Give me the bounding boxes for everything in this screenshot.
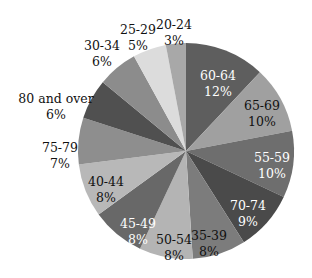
slice-category: 60-64: [200, 68, 236, 83]
slice-percent: 9%: [238, 214, 258, 229]
slice-category: 65-69: [244, 98, 280, 113]
slice-percent: 8%: [199, 244, 219, 259]
slice-percent: 12%: [204, 84, 232, 99]
slice-label: 55-5910%: [254, 150, 290, 181]
slice-category: 20-24: [156, 17, 192, 32]
slice-label: 60-6412%: [200, 68, 236, 99]
slice-percent: 3%: [164, 33, 184, 48]
slice-percent: 8%: [164, 248, 184, 263]
slice-category: 75-79: [42, 140, 78, 155]
slice-label: 75-797%: [42, 140, 78, 171]
slice-percent: 10%: [258, 166, 286, 181]
slice-percent: 6%: [46, 107, 66, 122]
slice-label: 80 and over6%: [18, 91, 93, 122]
slice-label: 65-6910%: [244, 98, 280, 129]
slice-category: 45-49: [120, 216, 156, 231]
pie-chart: 60-6412%65-6910%55-5910%70-749%35-398%50…: [0, 0, 312, 278]
slice-category: 80 and over: [18, 91, 93, 106]
slice-percent: 5%: [128, 38, 148, 53]
slice-category: 25-29: [120, 22, 156, 37]
slice-category: 70-74: [230, 198, 266, 213]
slice-category: 50-54: [156, 232, 192, 247]
slice-category: 30-34: [84, 38, 120, 53]
slice-percent: 8%: [96, 190, 116, 205]
slice-category: 40-44: [88, 174, 124, 189]
slice-category: 55-59: [254, 150, 290, 165]
slice-category: 35-39: [191, 228, 227, 243]
slice-percent: 6%: [92, 54, 112, 69]
slice-percent: 10%: [248, 114, 276, 129]
slice-label: 25-295%: [120, 22, 156, 53]
slice-percent: 7%: [50, 156, 70, 171]
slice-label: 30-346%: [84, 38, 120, 69]
slice-percent: 8%: [128, 232, 148, 247]
